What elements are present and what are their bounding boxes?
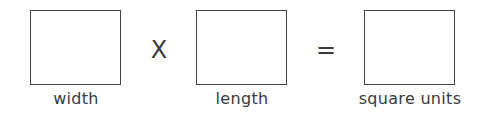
width-box: [30, 10, 121, 85]
square-units-label: square units: [340, 89, 478, 108]
square-units-box: [364, 10, 455, 85]
width-label: width: [30, 89, 122, 108]
length-label: length: [186, 89, 298, 108]
multiply-sign: X: [147, 36, 171, 64]
equals-sign: =: [314, 36, 338, 64]
length-box: [196, 10, 287, 85]
